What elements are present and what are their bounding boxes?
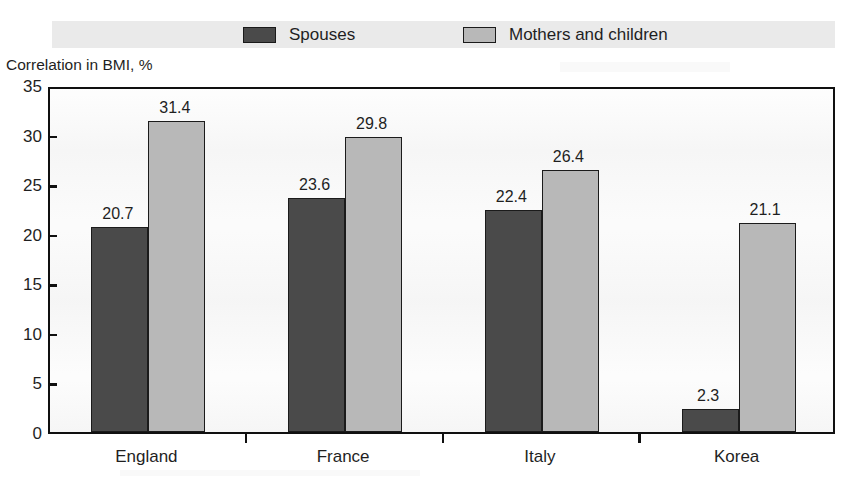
x-axis-label-korea: Korea <box>714 447 759 467</box>
y-axis-labels: 05101520253035 <box>0 0 42 483</box>
x-axis-tick <box>245 434 248 443</box>
bar-korea-mothers-and-children[interactable] <box>739 223 796 432</box>
bar-france-spouses[interactable] <box>288 198 345 432</box>
scan-artifact <box>120 470 420 476</box>
value-label-france-spouses: 23.6 <box>299 176 330 194</box>
bar-england-spouses[interactable] <box>91 227 148 432</box>
bars-layer <box>50 89 833 432</box>
legend-item-mothers-and-children[interactable]: Mothers and children <box>463 21 668 48</box>
bar-korea-spouses[interactable] <box>682 409 739 432</box>
legend-swatch-spouses-icon <box>243 27 276 43</box>
chart-legend: Spouses Mothers and children <box>52 21 835 48</box>
value-label-france-mothers-and-children: 29.8 <box>356 115 387 133</box>
y-axis-tick-label: 15 <box>2 275 42 295</box>
y-axis-tick <box>48 284 57 287</box>
bar-england-mothers-and-children[interactable] <box>148 121 205 432</box>
y-axis-tick-label: 30 <box>2 127 42 147</box>
value-label-italy-spouses: 22.4 <box>496 188 527 206</box>
legend-label-mothers-and-children: Mothers and children <box>509 26 668 43</box>
plot-area <box>48 87 835 434</box>
bar-france-mothers-and-children[interactable] <box>345 137 402 432</box>
scan-artifact <box>560 62 730 72</box>
value-label-korea-spouses: 2.3 <box>697 387 719 405</box>
legend-swatch-mothers-and-children-icon <box>463 27 496 43</box>
x-axis-tick <box>442 434 445 443</box>
value-label-england-spouses: 20.7 <box>102 205 133 223</box>
y-axis-tick-label: 5 <box>2 374 42 394</box>
y-axis-tick <box>48 383 57 386</box>
y-axis-tick <box>48 185 57 188</box>
y-axis-tick-label: 25 <box>2 176 42 196</box>
legend-label-spouses: Spouses <box>289 26 355 43</box>
x-axis-label-england: England <box>115 447 177 467</box>
x-axis-tick <box>638 434 641 443</box>
value-label-korea-mothers-and-children: 21.1 <box>750 201 781 219</box>
bar-italy-mothers-and-children[interactable] <box>542 170 599 432</box>
y-axis-tick-label: 0 <box>2 424 42 444</box>
value-label-italy-mothers-and-children: 26.4 <box>553 148 584 166</box>
y-axis-tick-label: 20 <box>2 226 42 246</box>
x-axis-label-france: France <box>317 447 370 467</box>
y-axis-tick-label: 35 <box>2 77 42 97</box>
chart-page: Spouses Mothers and children Correlation… <box>0 0 855 483</box>
y-axis-tick <box>48 136 57 139</box>
x-axis-label-italy: Italy <box>524 447 555 467</box>
bar-italy-spouses[interactable] <box>485 210 542 432</box>
legend-item-spouses[interactable]: Spouses <box>243 21 355 48</box>
y-axis-tick <box>48 334 57 337</box>
y-axis-tick <box>48 235 57 238</box>
value-label-england-mothers-and-children: 31.4 <box>159 99 190 117</box>
y-axis-tick-label: 10 <box>2 325 42 345</box>
